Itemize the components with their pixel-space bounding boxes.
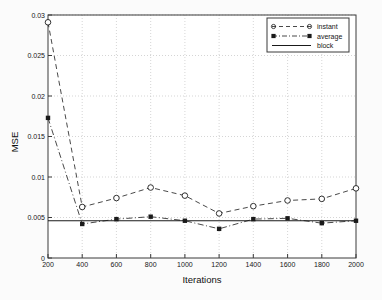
x-tick-label-2: 600	[111, 261, 123, 268]
x-tick-label-1: 400	[76, 261, 88, 268]
x-tick-label-5: 1200	[211, 261, 227, 268]
x-tick-label-8: 1800	[314, 261, 330, 268]
legend-label-instant: instant	[317, 23, 338, 30]
y-tick-label-4: 0.02	[31, 93, 45, 100]
data-point-instant-2000	[353, 186, 359, 192]
y-tick-label-6: 0.03	[31, 12, 45, 19]
data-point-instant-200	[45, 19, 51, 25]
data-point-instant-1800	[319, 196, 325, 202]
x-tick-label-7: 1600	[280, 261, 296, 268]
x-axis-title: Iterations	[182, 274, 221, 285]
legend-label-block: block	[317, 42, 334, 49]
data-point-instant-1600	[285, 198, 291, 204]
data-point-average-400	[80, 222, 84, 226]
legend-label-average: average	[317, 33, 342, 41]
data-point-instant-800	[148, 185, 154, 191]
y-axis-title: MSE	[9, 132, 20, 153]
x-tick-label-6: 1400	[246, 261, 262, 268]
x-tick-label-4: 1000	[177, 261, 193, 268]
y-tick-label-3: 0.015	[27, 133, 45, 140]
data-point-instant-1000	[182, 193, 188, 199]
data-point-average-200	[46, 116, 50, 120]
chart-figure: 0 0.005 0.01 0.015 0.02 0.025 0.03 200 4…	[0, 0, 382, 300]
x-tick-label-9: 2000	[348, 261, 364, 268]
data-point-instant-1200	[216, 211, 222, 217]
data-point-instant-600	[114, 195, 120, 201]
data-point-instant-400	[79, 204, 85, 210]
y-tick-label-1: 0.005	[27, 214, 45, 221]
data-point-average-1600	[285, 216, 289, 220]
x-tick-label-3: 800	[145, 261, 157, 268]
x-tick-label-0: 200	[42, 261, 54, 268]
data-point-average-800	[148, 214, 152, 218]
mse-vs-iterations-chart: 0 0.005 0.01 0.015 0.02 0.025 0.03 200 4…	[0, 0, 382, 300]
legend: instant average block	[267, 18, 349, 52]
y-tick-label-5: 0.025	[27, 52, 45, 59]
data-point-instant-1400	[251, 203, 257, 209]
data-point-average-1800	[320, 221, 324, 225]
y-tick-label-2: 0.01	[31, 174, 45, 181]
data-point-average-1200	[217, 227, 221, 231]
